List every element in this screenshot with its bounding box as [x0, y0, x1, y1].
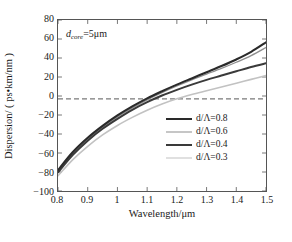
legend-item-label: d/Λ=0.6	[192, 125, 228, 138]
x-axis-tick-labels: 0.80.911.11.21.31.41.5	[57, 195, 267, 209]
y-axis-tick-label: 20	[44, 72, 54, 82]
x-axis-tick-label: 0.9	[81, 195, 94, 205]
legend-item[interactable]: d/Λ=0.3	[166, 151, 262, 164]
y-axis-title: Dispersion/ ( ps•km/nm )	[3, 52, 14, 158]
x-axis-tick-label: 1.2	[171, 195, 184, 205]
x-axis-tick-label: 0.8	[51, 195, 64, 205]
legend-line-swatch	[166, 112, 192, 125]
legend-item-label: d/Λ=0.8	[192, 112, 228, 125]
x-axis-tick-label: 1	[115, 195, 120, 205]
legend-item-label: d/Λ=0.3	[192, 151, 228, 164]
x-axis-tick-label: 1.3	[201, 195, 214, 205]
legend: d/Λ=0.8d/Λ=0.6d/Λ=0.4d/Λ=0.3	[166, 112, 262, 164]
x-axis-tick-label: 1.5	[261, 195, 274, 205]
plot-canvas	[58, 20, 266, 191]
legend-line-swatch	[166, 138, 192, 151]
plot-area	[57, 19, 267, 192]
x-axis-title: Wavelength/μm	[57, 208, 267, 219]
y-axis-tick-label: −20	[38, 110, 54, 120]
y-axis-tick-label: 40	[44, 52, 54, 62]
y-axis-tick-label: 0	[49, 91, 54, 101]
legend-line-swatch	[166, 125, 192, 138]
legend-item[interactable]: d/Λ=0.4	[166, 138, 262, 151]
y-axis-tick-label: −40	[38, 129, 54, 139]
y-axis-title-wrapper: Dispersion/ ( ps•km/nm )	[0, 19, 16, 192]
legend-item[interactable]: d/Λ=0.6	[166, 125, 262, 138]
annotation-value: =5μm	[83, 28, 107, 39]
x-axis-tick-label: 1.1	[141, 195, 154, 205]
legend-line-swatch	[166, 151, 192, 164]
annotation-subscript: core	[71, 33, 83, 41]
y-axis-tick-label: −80	[38, 168, 54, 178]
legend-item[interactable]: d/Λ=0.8	[166, 112, 262, 125]
y-axis-tick-label: 60	[44, 33, 54, 43]
x-axis-tick-label: 1.4	[231, 195, 244, 205]
y-axis-tick-label: 80	[44, 14, 54, 24]
dispersion-chart-figure: −100−80−60−40−20020406080 0.80.911.11.21…	[0, 0, 292, 242]
legend-item-label: d/Λ=0.4	[192, 138, 228, 151]
core-diameter-annotation: dcore=5μm	[66, 28, 107, 39]
y-axis-tick-label: −60	[38, 149, 54, 159]
